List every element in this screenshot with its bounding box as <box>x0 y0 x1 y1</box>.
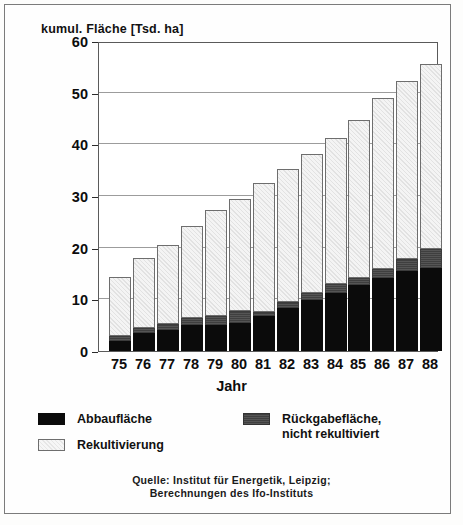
bar-segment-85-1 <box>348 278 370 286</box>
bar-87 <box>396 81 418 351</box>
bar-segment-82-0 <box>277 308 299 351</box>
bar-segment-76-1 <box>133 328 155 333</box>
legend: AbbauflächeRückgabefläche, nicht rekulti… <box>38 412 428 460</box>
bar-segment-76-0 <box>133 333 155 351</box>
y-tick-label-0: 0 <box>54 344 88 360</box>
bar-segment-88-0 <box>420 268 442 351</box>
source-note: Quelle: Institut für Energetik, Leipzig;… <box>0 474 463 500</box>
bar-segment-81-1 <box>253 312 275 316</box>
bar-segment-78-0 <box>181 325 203 351</box>
bar-segment-78-1 <box>181 318 203 325</box>
bar-segment-75-1 <box>109 336 131 341</box>
bar-segment-77-1 <box>157 324 179 330</box>
bar-segment-81-0 <box>253 316 275 351</box>
bar-segment-78-2 <box>181 226 203 318</box>
bar-segment-75-2 <box>109 277 131 335</box>
y-tick-label-60: 60 <box>54 34 88 50</box>
x-tick-label-88: 88 <box>415 356 445 372</box>
bar-segment-77-2 <box>157 245 179 325</box>
legend-label-3: Rekultivierung <box>77 438 164 453</box>
legend-swatch-light <box>38 439 65 451</box>
chart-figure: kumul. Fläche [Tsd. ha] 0102030405060 75… <box>0 0 463 525</box>
bar-76 <box>133 258 155 351</box>
bar-group <box>99 43 437 351</box>
bar-segment-87-2 <box>396 81 418 259</box>
plot-area <box>98 42 438 352</box>
bar-segment-84-0 <box>325 293 347 351</box>
bar-segment-82-2 <box>277 169 299 303</box>
bar-segment-81-2 <box>253 183 275 312</box>
y-tick-mark-60 <box>92 42 98 43</box>
bar-82 <box>277 169 299 351</box>
bar-segment-83-1 <box>301 293 323 300</box>
bar-80 <box>229 199 251 351</box>
bar-78 <box>181 226 203 351</box>
bar-86 <box>372 98 394 351</box>
y-tick-mark-20 <box>92 249 98 250</box>
legend-item-1: Abbaufläche <box>38 412 152 427</box>
bar-segment-75-0 <box>109 341 131 351</box>
bar-segment-86-1 <box>372 269 394 278</box>
y-tick-label-20: 20 <box>54 241 88 257</box>
bar-79 <box>205 210 227 351</box>
bar-segment-79-2 <box>205 210 227 315</box>
bar-segment-86-0 <box>372 278 394 351</box>
bar-segment-76-2 <box>133 258 155 328</box>
bar-segment-87-0 <box>396 271 418 351</box>
bar-85 <box>348 120 370 351</box>
bar-segment-80-1 <box>229 311 251 323</box>
legend-label-2: Rückgabefläche, nicht rekultiviert <box>282 412 381 442</box>
source-line-2: Berechnungen des Ifo-Instituts <box>0 487 463 500</box>
bar-75 <box>109 277 131 351</box>
bar-segment-88-2 <box>420 64 442 249</box>
legend-swatch-black <box>38 413 65 425</box>
legend-item-3: Rekultivierung <box>38 438 164 453</box>
bar-segment-79-1 <box>205 316 227 325</box>
bar-segment-84-2 <box>325 138 347 284</box>
bar-segment-80-0 <box>229 323 251 351</box>
bar-segment-83-0 <box>301 300 323 351</box>
y-tick-mark-0 <box>92 352 98 353</box>
legend-label-1: Abbaufläche <box>77 412 152 427</box>
bar-77 <box>157 245 179 351</box>
bar-segment-77-0 <box>157 330 179 351</box>
bar-segment-85-2 <box>348 120 370 278</box>
bar-81 <box>253 183 275 351</box>
y-tick-mark-40 <box>92 145 98 146</box>
bar-83 <box>301 154 323 351</box>
y-tick-mark-30 <box>92 197 98 198</box>
y-tick-mark-50 <box>92 94 98 95</box>
bar-segment-82-1 <box>277 302 299 307</box>
y-tick-mark-10 <box>92 300 98 301</box>
source-line-1: Quelle: Institut für Energetik, Leipzig; <box>0 474 463 487</box>
y-tick-label-30: 30 <box>54 189 88 205</box>
bar-segment-84-1 <box>325 284 347 292</box>
y-tick-label-40: 40 <box>54 137 88 153</box>
legend-item-2: Rückgabefläche, nicht rekultiviert <box>243 412 381 442</box>
bar-segment-79-0 <box>205 325 227 351</box>
bar-segment-85-0 <box>348 285 370 351</box>
y-tick-label-10: 10 <box>54 292 88 308</box>
bar-segment-88-1 <box>420 249 442 269</box>
bar-88 <box>420 64 442 351</box>
y-tick-label-50: 50 <box>54 86 88 102</box>
bar-segment-87-1 <box>396 259 418 271</box>
bar-segment-86-2 <box>372 98 394 269</box>
x-axis-title: Jahr <box>0 378 463 394</box>
bar-segment-83-2 <box>301 154 323 293</box>
bar-segment-80-2 <box>229 199 251 311</box>
legend-swatch-gray <box>243 413 270 425</box>
bar-84 <box>325 138 347 351</box>
